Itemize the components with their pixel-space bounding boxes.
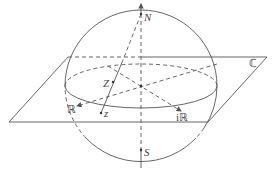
label-z: z <box>103 107 109 119</box>
label-south: S <box>144 146 150 158</box>
label-real-axis: ℝ <box>67 103 76 115</box>
projection-line-dashed <box>123 14 141 60</box>
origin-point <box>140 85 142 87</box>
label-Z: Z <box>103 77 110 89</box>
south-pole-point <box>140 149 142 151</box>
real-axis-line <box>77 64 217 106</box>
label-complex-plane: ℂ <box>249 57 257 69</box>
imaginary-axis-line <box>108 66 181 111</box>
label-north: N <box>143 11 152 23</box>
label-imaginary-axis: iℝ <box>176 111 188 123</box>
north-pole-point <box>140 13 142 15</box>
riemann-sphere-diagram: N S Z z ℝ iℝ ℂ <box>0 0 273 173</box>
plane-point-z <box>100 112 102 114</box>
sphere-point-Z <box>112 81 114 83</box>
complex-plane <box>9 57 267 122</box>
